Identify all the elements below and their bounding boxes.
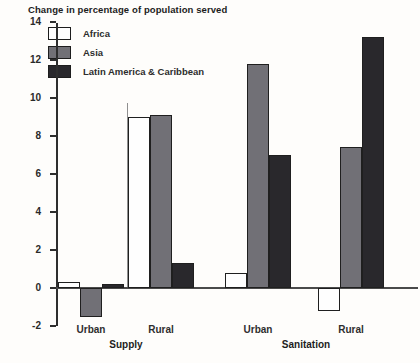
bar-latin-america-caribbean-sanitation-urban bbox=[269, 155, 291, 288]
y-tick-mark bbox=[50, 249, 56, 250]
y-tick-label-4: 4 bbox=[19, 207, 41, 217]
bar-latin-america-caribbean-supply-urban bbox=[102, 284, 124, 288]
y-tick-mark bbox=[50, 173, 56, 174]
bar-latin-america-caribbean-sanitation-rural bbox=[362, 37, 384, 288]
x-category-label-sanitation-urban: Urban bbox=[228, 324, 288, 335]
plot-area: 14121086420-2UrbanRuralUrbanRuralSupplyS… bbox=[0, 0, 420, 363]
x-category-label-sanitation-rural: Rural bbox=[321, 324, 381, 335]
bar-asia-sanitation-rural bbox=[340, 147, 362, 288]
bar-africa-sanitation-urban bbox=[225, 273, 247, 288]
bar-africa-supply-urban bbox=[58, 282, 80, 288]
y-tick-mark bbox=[50, 59, 56, 60]
bar-asia-supply-urban bbox=[80, 288, 102, 317]
y-tick-label-2: 2 bbox=[19, 245, 41, 255]
y-tick-mark bbox=[50, 135, 56, 136]
y-tick-mark bbox=[50, 325, 56, 326]
y-axis bbox=[56, 23, 58, 326]
y-tick-label-14: 14 bbox=[19, 17, 41, 27]
y-tick-label-12: 12 bbox=[19, 55, 41, 65]
y-tick-label-0: 0 bbox=[19, 283, 41, 293]
y-tick-label-6: 6 bbox=[19, 169, 41, 179]
x-section-label-sanitation: Sanitation bbox=[261, 339, 351, 350]
y-tick-label-8: 8 bbox=[19, 131, 41, 141]
y-tick-mark bbox=[50, 211, 56, 212]
x-category-label-supply-urban: Urban bbox=[61, 324, 121, 335]
y-tick-label-10: 10 bbox=[19, 93, 41, 103]
bar-africa-supply-rural bbox=[128, 117, 150, 288]
bar-asia-supply-rural bbox=[150, 115, 172, 288]
y-tick-label--2: -2 bbox=[19, 321, 41, 331]
x-section-label-supply: Supply bbox=[81, 339, 171, 350]
bar-africa-sanitation-rural bbox=[318, 288, 340, 311]
bar-latin-america-caribbean-supply-rural bbox=[172, 263, 194, 288]
x-category-label-supply-rural: Rural bbox=[131, 324, 191, 335]
bar-chart-figure: Change in percentage of population serve… bbox=[0, 0, 420, 363]
y-tick-mark bbox=[50, 21, 56, 22]
bar-asia-sanitation-urban bbox=[247, 64, 269, 288]
y-tick-mark bbox=[50, 97, 56, 98]
